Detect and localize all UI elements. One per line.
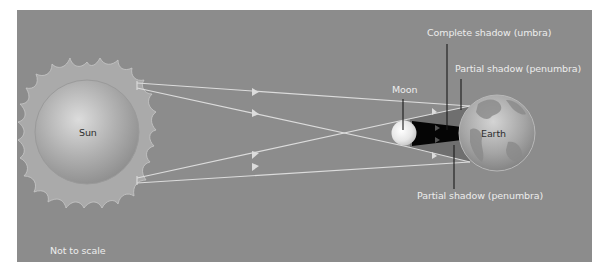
sun-label: Sun — [79, 127, 97, 138]
moon-label: Moon — [392, 84, 417, 95]
penumbra-top-label: Partial shadow (penumbra) — [455, 63, 581, 74]
scale-note: Not to scale — [50, 245, 106, 256]
eclipse-diagram: Sun Moon Earth Complete shadow (umbra) P… — [0, 0, 603, 273]
moon-icon — [392, 121, 417, 146]
earth-label: Earth — [481, 128, 506, 139]
umbra-label: Complete shadow (umbra) — [427, 27, 551, 38]
penumbra-bottom-label: Partial shadow (penumbra) — [417, 190, 543, 201]
